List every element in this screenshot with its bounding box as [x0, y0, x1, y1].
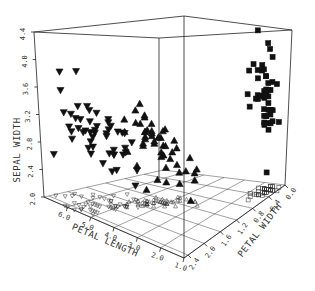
marker-setosa: [247, 104, 252, 109]
marker-versicolor: [132, 107, 139, 113]
marker-virginica: [60, 110, 67, 116]
x-tick-label: 2.0: [150, 251, 165, 263]
x-tick-mark: [136, 238, 137, 242]
y-tick-label: 2.4: [187, 256, 201, 271]
marker-virginica: [57, 88, 64, 94]
marker-setosa: [262, 122, 267, 127]
shadow-marker-virginica: [82, 205, 86, 209]
marker-setosa: [266, 101, 271, 106]
y-tick-mark: [285, 185, 288, 188]
x-tick-mark: [183, 258, 184, 262]
z-tick-label: 4.4: [19, 28, 27, 41]
marker-versicolor: [121, 116, 128, 122]
marker-versicolor: [193, 166, 200, 172]
shadow-marker-virginica: [84, 203, 88, 207]
marker-setosa: [264, 74, 269, 79]
marker-virginica: [128, 140, 135, 146]
marker-versicolor: [182, 168, 189, 174]
marker-setosa: [255, 76, 260, 81]
marker-virginica: [69, 136, 76, 142]
marker-virginica: [74, 103, 81, 109]
marker-setosa: [251, 62, 256, 67]
marker-versicolor: [163, 179, 170, 185]
grid-line-petal-width: [106, 183, 237, 220]
z-tick-label: 2.4: [27, 165, 35, 178]
shadow-marker-virginica: [63, 195, 67, 199]
shadow-marker-virginica: [125, 193, 129, 197]
z-tick-label: 3.6: [22, 83, 30, 96]
grid-line-petal-width: [144, 174, 269, 196]
marker-setosa: [261, 67, 266, 72]
marker-virginica: [73, 68, 80, 74]
marker-setosa: [264, 170, 269, 175]
shadow-marker-versicolor: [174, 204, 178, 208]
y-tick-label: 0.0: [284, 186, 298, 201]
top-edge: [159, 30, 292, 38]
z-axis-title: SEPAL WIDTH: [12, 117, 22, 182]
marker-virginica: [68, 129, 75, 135]
marker-versicolor: [136, 100, 143, 106]
marker-setosa: [266, 127, 271, 132]
data-markers: [50, 28, 281, 204]
x-tick-mark: [90, 217, 91, 221]
top-edge: [34, 32, 159, 38]
x-tick-label: 1.0: [173, 261, 188, 273]
y-tick-mark: [220, 232, 223, 235]
top-edge: [34, 16, 184, 32]
marker-virginica: [110, 152, 117, 158]
marker-setosa: [270, 79, 275, 84]
marker-setosa: [247, 68, 252, 73]
shadow-marker-virginica: [102, 197, 106, 201]
y-tick-mark: [237, 220, 240, 223]
right-vertical-edge: [285, 30, 292, 185]
y-tick-label: 2.0: [204, 245, 218, 260]
x-tick-label: 6.0: [57, 210, 72, 222]
x-tick-mark: [113, 228, 114, 232]
marker-virginica: [88, 151, 95, 157]
marker-versicolor: [162, 164, 169, 170]
y-tick-mark: [253, 208, 256, 211]
z-tick-label: 4.0: [21, 55, 29, 68]
marker-versicolor: [186, 154, 193, 160]
marker-versicolor: [148, 120, 155, 126]
marker-virginica: [86, 119, 93, 125]
marker-virginica: [85, 145, 92, 151]
marker-setosa: [264, 89, 269, 94]
marker-setosa: [266, 41, 271, 46]
marker-virginica: [56, 69, 63, 75]
z-tick-label: 3.2: [24, 110, 32, 123]
marker-setosa: [268, 121, 273, 126]
y-tick-label: 1.2: [236, 221, 250, 236]
plot-area: 2.02.42.83.23.64.04.46.05.04.03.02.01.02…: [0, 0, 315, 291]
scatter-3d-chart: 2.02.42.83.23.64.04.46.05.04.03.02.01.02…: [0, 0, 315, 291]
marker-setosa: [276, 120, 281, 125]
y-tick-mark: [188, 255, 191, 258]
marker-setosa: [264, 94, 269, 99]
marker-setosa: [256, 96, 261, 101]
marker-setosa: [266, 107, 271, 112]
shadow-marker-virginica: [70, 194, 74, 198]
marker-virginica: [134, 168, 141, 174]
marker-setosa: [268, 46, 273, 51]
marker-versicolor: [173, 145, 180, 151]
marker-versicolor: [167, 155, 174, 161]
top-edge: [184, 16, 292, 30]
marker-setosa: [255, 28, 260, 33]
shadow-marker-versicolor: [184, 197, 188, 201]
x-tick-mark: [160, 248, 161, 252]
z-tick-label: 2.8: [26, 138, 34, 151]
marker-setosa: [264, 114, 269, 119]
shadow-marker-virginica: [88, 205, 92, 209]
y-tick-mark: [204, 243, 207, 246]
marker-versicolor: [173, 161, 180, 167]
marker-versicolor: [143, 186, 150, 192]
y-tick-mark: [269, 197, 272, 200]
shadow-marker-virginica: [136, 206, 140, 210]
y-tick-label: 1.6: [220, 233, 234, 248]
marker-setosa: [270, 54, 275, 59]
marker-virginica: [99, 161, 106, 167]
marker-virginica: [93, 110, 100, 116]
marker-versicolor: [171, 137, 178, 143]
z-tick-label: 2.0: [29, 193, 37, 206]
marker-setosa: [245, 92, 250, 97]
